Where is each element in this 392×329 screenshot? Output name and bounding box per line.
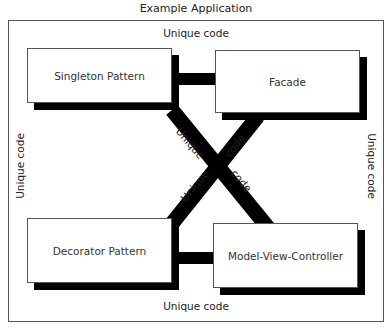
singleton-pattern-box[interactable]: Singleton Pattern xyxy=(27,48,172,103)
facade-label: Facade xyxy=(269,76,306,88)
facade-box[interactable]: Facade xyxy=(215,50,360,113)
left-unique-code-label: Unique code xyxy=(14,129,26,203)
decorator-pattern-box[interactable]: Decorator Pattern xyxy=(27,218,172,283)
decorator-pattern-label: Decorator Pattern xyxy=(53,245,146,257)
right-unique-code-label: Unique code xyxy=(366,129,378,203)
bottom-unique-code-label: Unique code xyxy=(0,300,392,312)
mvc-label: Model-View-Controller xyxy=(228,250,343,262)
mvc-box[interactable]: Model-View-Controller xyxy=(213,223,358,288)
singleton-pattern-label: Singleton Pattern xyxy=(54,70,145,82)
top-unique-code-label: Unique code xyxy=(0,27,392,39)
